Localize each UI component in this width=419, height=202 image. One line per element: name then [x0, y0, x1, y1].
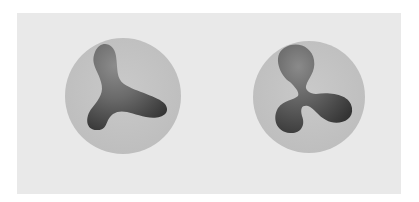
- figure-svg: [0, 0, 419, 202]
- right-figure: [253, 41, 365, 153]
- left-figure: [65, 38, 181, 154]
